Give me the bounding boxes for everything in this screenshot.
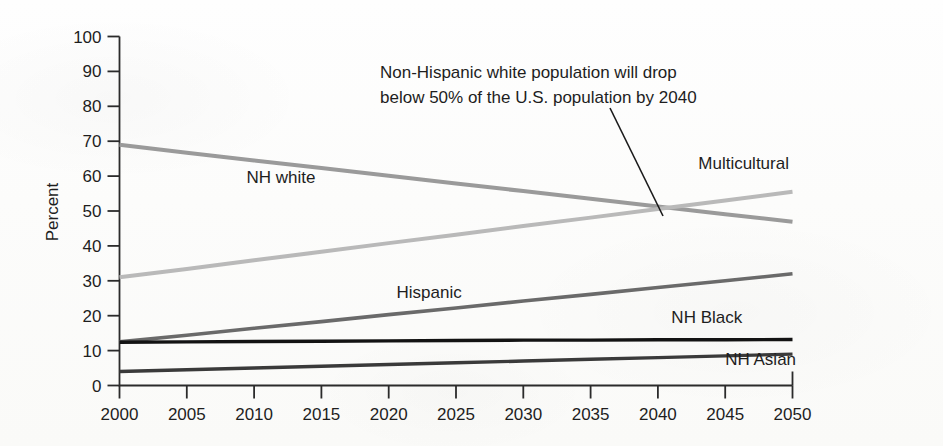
series-line-nh-white <box>120 145 793 222</box>
y-tick-label-50: 50 <box>83 202 102 221</box>
y-tick-label-90: 90 <box>83 62 102 81</box>
x-tick-label-2020: 2020 <box>370 405 408 424</box>
series-line-nh-asian <box>120 354 793 371</box>
y-tick-label-60: 60 <box>83 167 102 186</box>
x-tick-label-2040: 2040 <box>639 405 677 424</box>
population-projection-line-chart: 0102030405060708090100 20002005201020152… <box>0 0 943 446</box>
series-label-multicultural: Multicultural <box>698 154 789 173</box>
x-tick-label-2000: 2000 <box>101 405 139 424</box>
x-tick-label-2030: 2030 <box>504 405 542 424</box>
y-tick-label-20: 20 <box>83 307 102 326</box>
series-label-nh-black: NH Black <box>671 308 742 327</box>
chart-canvas: 0102030405060708090100 20002005201020152… <box>0 0 943 446</box>
y-tick-label-10: 10 <box>83 342 102 361</box>
x-tick-label-2005: 2005 <box>168 405 206 424</box>
x-tick-label-2045: 2045 <box>706 405 744 424</box>
series-label-nh-asian: NH Asian <box>725 350 796 369</box>
x-tick-label-2035: 2035 <box>572 405 610 424</box>
series-label-nh-white: NH white <box>247 168 316 187</box>
y-axis-tick-labels: 0102030405060708090100 <box>73 28 101 396</box>
series-label-hispanic: Hispanic <box>396 283 462 302</box>
x-tick-label-2010: 2010 <box>235 405 273 424</box>
x-tick-label-2050: 2050 <box>774 405 812 424</box>
y-tick-label-70: 70 <box>83 132 102 151</box>
series-line-multicultural <box>120 192 793 278</box>
data-series-lines <box>120 145 793 372</box>
y-tick-label-100: 100 <box>73 28 101 47</box>
y-tick-label-80: 80 <box>83 97 102 116</box>
x-tick-label-2015: 2015 <box>302 405 340 424</box>
annotation-leader-line <box>610 108 663 216</box>
annotation-line-1: Non-Hispanic white population will drop <box>380 63 677 82</box>
y-tick-label-30: 30 <box>83 272 102 291</box>
x-tick-label-2025: 2025 <box>437 405 475 424</box>
y-tick-label-40: 40 <box>83 237 102 256</box>
series-line-nh-black <box>120 339 793 342</box>
y-tick-label-0: 0 <box>92 377 101 396</box>
annotation-line-2: below 50% of the U.S. population by 2040 <box>380 88 697 107</box>
y-axis-title: Percent <box>43 182 62 241</box>
x-axis-tick-labels: 2000200520102015202020252030203520402045… <box>101 405 812 424</box>
data-series-labels: NH whiteMulticulturalHispanicNH BlackNH … <box>247 154 797 368</box>
